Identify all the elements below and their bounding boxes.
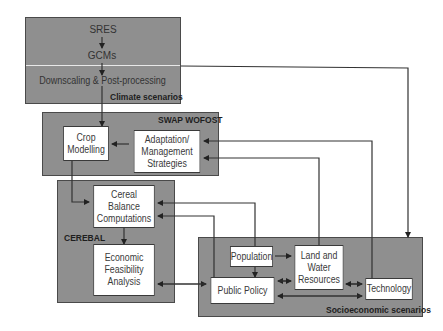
swap-wofost-label: SWAP WOFOST — [158, 115, 223, 125]
node-text: Technology — [367, 283, 412, 295]
node-text: Water — [307, 262, 330, 273]
node-text: Population — [231, 251, 273, 263]
node-text: Analysis — [108, 276, 141, 287]
land-water-node: Land andWaterResources — [294, 245, 343, 290]
cerebal-label: CEREBAL — [64, 233, 105, 243]
node-text: Cereal Balance — [108, 189, 140, 212]
cereal-balance-node: Cereal BalanceComputations — [93, 185, 155, 228]
node-text: Land and — [301, 250, 338, 261]
node-text: Strategies — [147, 158, 187, 169]
crop-modelling-node: CropModelling — [63, 126, 109, 161]
economic-feasibility-node: EconomicFeasibilityAnalysis — [93, 244, 155, 296]
node-text: Adaptation/ — [145, 134, 190, 145]
node-text: Public Policy — [218, 285, 268, 297]
downscaling-label: Downscaling & Post-processing — [37, 75, 168, 86]
gcms-label: GCMs — [86, 50, 118, 61]
adaptation-node: Adaptation/ManagementStrategies — [134, 130, 201, 173]
node-text: Computations — [97, 213, 151, 224]
divider — [26, 65, 180, 66]
node-text: Resources — [298, 274, 340, 285]
technology-node: Technology — [365, 278, 413, 300]
node-text: Feasibility — [104, 264, 143, 275]
climate-scenarios-label: Climate scenarios — [110, 92, 183, 102]
node-text: Economic — [105, 252, 144, 263]
node-text: Management — [141, 146, 192, 157]
node-text: Modelling — [67, 144, 105, 155]
population-node: Population — [230, 246, 273, 267]
public-policy-node: Public Policy — [210, 277, 274, 304]
socioeconomic-label: Socioeconomic scenarios — [326, 305, 431, 315]
sres-label: SRES — [88, 24, 118, 35]
node-text: Crop — [76, 132, 95, 143]
